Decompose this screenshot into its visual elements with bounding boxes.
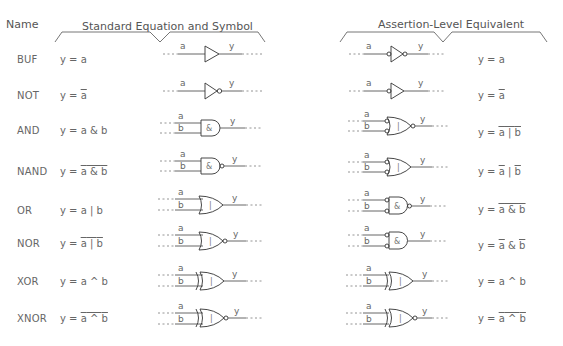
pin-label-a: a: [180, 78, 186, 88]
pin-label-y: y: [422, 269, 428, 279]
or-glyph: |: [209, 237, 212, 246]
and-glyph: &: [394, 202, 400, 211]
pin-label-b: b: [178, 236, 184, 246]
pin-label-b: b: [178, 276, 184, 286]
assert-xor-gate-icon: [346, 272, 450, 290]
pin-label-y: y: [229, 78, 235, 88]
pin-label-b: b: [364, 121, 370, 131]
pin-label-a: a: [178, 263, 184, 273]
pin-label-y: y: [232, 154, 238, 164]
pin-label-b: b: [366, 314, 372, 324]
pin-label-a: a: [366, 301, 372, 311]
pin-label-b: b: [364, 162, 370, 172]
pin-label-y: y: [418, 41, 424, 51]
pin-label-y: y: [233, 229, 239, 239]
pin-label-a: a: [178, 223, 184, 233]
pin-label-b: b: [180, 161, 186, 171]
and-glyph: &: [394, 237, 400, 246]
pin-label-b: b: [178, 314, 184, 324]
pin-label-b: b: [178, 200, 184, 210]
pin-label-a: a: [180, 149, 186, 159]
pin-label-y: y: [420, 114, 426, 124]
assert-xnor-gate-icon: [346, 309, 450, 327]
xor-glyph: |: [210, 277, 213, 286]
xor-glyph: |: [210, 314, 213, 323]
pin-label-y: y: [230, 116, 236, 126]
and-glyph: &: [206, 162, 212, 171]
xor-glyph: |: [399, 277, 402, 286]
pin-label-a: a: [366, 263, 372, 273]
pin-label-y: y: [232, 269, 238, 279]
pin-label-a: a: [178, 111, 184, 121]
pin-label-y: y: [234, 306, 240, 316]
pin-label-a: a: [364, 150, 370, 160]
pin-label-b: b: [366, 276, 372, 286]
pin-label-a: a: [366, 41, 372, 51]
and-glyph: &: [206, 124, 212, 133]
pin-label-y: y: [420, 194, 426, 204]
assert-not-gate-icon: [349, 83, 446, 99]
pin-label-b: b: [178, 123, 184, 133]
pin-label-y: y: [229, 41, 235, 51]
pin-label-a: a: [364, 223, 370, 233]
pin-label-y: y: [420, 229, 426, 239]
or-glyph: |: [397, 163, 400, 172]
pin-label-a: a: [364, 109, 370, 119]
std-buf-gate-icon: [163, 46, 262, 62]
std-not-gate-icon: [163, 83, 262, 99]
pin-label-a: a: [180, 41, 186, 51]
pin-label-b: b: [364, 236, 370, 246]
pin-label-y: y: [418, 78, 424, 88]
pin-label-a: a: [364, 188, 370, 198]
or-glyph: |: [209, 201, 212, 210]
pin-label-b: b: [364, 201, 370, 211]
or-glyph: |: [397, 122, 400, 131]
xor-glyph: |: [399, 314, 402, 323]
assert-buf-gate-icon: [349, 46, 446, 62]
pin-label-a: a: [366, 78, 372, 88]
pin-label-y: y: [422, 306, 428, 316]
pin-label-a: a: [178, 187, 184, 197]
pin-label-y: y: [420, 155, 426, 165]
pin-label-y: y: [232, 193, 238, 203]
gate-diagram-canvas: a y a y a b y & a b y & a b y | a b y | …: [0, 0, 563, 346]
pin-label-a: a: [178, 301, 184, 311]
